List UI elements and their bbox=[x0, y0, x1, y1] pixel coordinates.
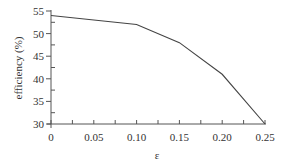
x-tick-label: 0 bbox=[48, 131, 54, 143]
x-tick-label: 0.10 bbox=[127, 131, 147, 143]
y-tick-label: 35 bbox=[33, 95, 45, 107]
x-tick-label: 0.15 bbox=[170, 131, 190, 143]
y-tick-label: 30 bbox=[33, 118, 45, 130]
y-tick-label: 40 bbox=[33, 73, 45, 85]
axes bbox=[47, 10, 266, 128]
y-axis-label: efficiency (%) bbox=[12, 36, 25, 99]
x-axis-label: ε bbox=[155, 149, 160, 161]
tick-labels: 30354045505500.050.100.150.200.25 bbox=[33, 5, 275, 143]
line-chart: 30354045505500.050.100.150.200.25 ε effi… bbox=[0, 0, 287, 164]
efficiency-line bbox=[51, 16, 265, 124]
ticks bbox=[46, 11, 265, 124]
y-tick-label: 50 bbox=[33, 28, 45, 40]
x-tick-label: 0.25 bbox=[255, 131, 275, 143]
x-tick-label: 0.20 bbox=[213, 131, 233, 143]
y-tick-label: 45 bbox=[33, 50, 45, 62]
x-tick-label: 0.05 bbox=[84, 131, 104, 143]
y-tick-label: 55 bbox=[33, 5, 45, 17]
